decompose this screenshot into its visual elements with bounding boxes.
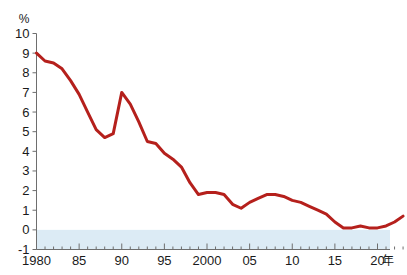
x-tick-label: 1980 [22, 253, 51, 268]
y-tick-label: 10 [15, 26, 29, 41]
y-tick-label: 1 [22, 203, 29, 218]
x-tick-label: 85 [72, 253, 86, 268]
x-tick-label: 2000 [193, 253, 222, 268]
y-tick-label: 9 [22, 46, 29, 61]
y-axis-unit-label: % [19, 12, 30, 26]
y-tick-label: 3 [22, 163, 29, 178]
x-tick-label: 95 [157, 253, 171, 268]
x-axis-unit-label: 年 [382, 254, 394, 268]
data-line-series-0 [37, 53, 404, 228]
y-tick-label: 8 [22, 65, 29, 80]
negative-value-band [37, 230, 391, 250]
line-chart: 109876543210-1%1980859095200005101520年 [0, 0, 407, 275]
y-axis: 109876543210-1 [15, 26, 36, 257]
x-tick-label: 15 [328, 253, 342, 268]
y-tick-label: 4 [22, 144, 29, 159]
y-tick-label: 0 [22, 222, 29, 237]
x-tick-label: 05 [242, 253, 256, 268]
y-tick-label: 2 [22, 183, 29, 198]
x-tick-label: 10 [285, 253, 299, 268]
chart-canvas: 109876543210-1%1980859095200005101520年 [0, 0, 407, 275]
x-tick-label: 90 [115, 253, 129, 268]
y-tick-label: 7 [22, 85, 29, 100]
y-tick-label: 5 [22, 124, 29, 139]
y-tick-label: 6 [22, 105, 29, 120]
